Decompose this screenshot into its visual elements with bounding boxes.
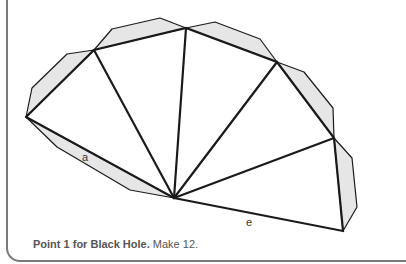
caption-instruction: Make 12. [150,238,198,250]
edge-label-e: e [246,216,252,228]
glue-flaps [26,18,357,231]
edge-label-a: a [82,151,89,163]
figure-caption: Point 1 for Black Hole. Make 12. [33,238,198,250]
caption-title: Point 1 for Black Hole. [33,238,150,250]
glue-flap [94,18,186,50]
fold-line [174,28,186,198]
